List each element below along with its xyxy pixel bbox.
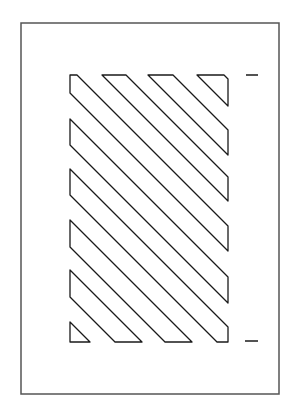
hatch-stripe [197,75,228,106]
hatch-stripe [102,75,228,201]
hatch-stripe [70,322,90,342]
hatch-stripe [148,75,228,155]
hatch-stripe [70,169,228,342]
outer-frame [21,23,279,394]
hatched-diagram [0,0,295,417]
hatch-bands [70,75,228,342]
hatch-stripe [70,220,192,342]
